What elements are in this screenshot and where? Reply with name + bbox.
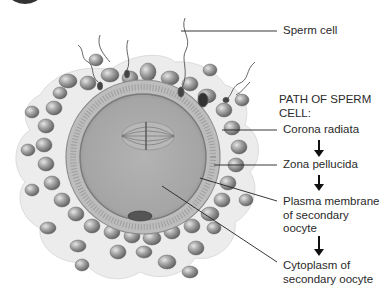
arrow-down-1 (318, 140, 320, 151)
cytoplasm (80, 94, 206, 220)
label-zona-pellucida: Zona pellucida (283, 158, 358, 172)
label-sperm-cell: Sperm cell (283, 24, 337, 38)
path-heading-line2: CELL: (279, 107, 371, 121)
arrow-down-2 (318, 175, 320, 185)
path-heading: PATH OF SPERM CELL: (279, 93, 371, 120)
label-plasma-membrane: Plasma membrane of secondary oocyte (283, 195, 380, 236)
path-heading-line1: PATH OF SPERM (279, 93, 371, 107)
arrow-down-3 (318, 236, 320, 250)
plasma-membrane-line1: Plasma membrane (283, 195, 380, 209)
label-corona-radiata: Corona radiata (283, 123, 359, 137)
cytoplasm-line1: Cytoplasm of (283, 259, 373, 273)
plasma-membrane-line3: oocyte (283, 222, 380, 236)
plasma-membrane-line2: of secondary (283, 209, 380, 223)
oocyte-illustration (0, 0, 383, 302)
cytoplasm-line2: secondary oocyte (283, 273, 373, 287)
meiotic-spindle (122, 122, 174, 150)
label-cytoplasm: Cytoplasm of secondary oocyte (283, 259, 373, 286)
polar-body (128, 211, 152, 221)
diagram-root: Sperm cell PATH OF SPERM CELL: Corona ra… (0, 0, 383, 302)
